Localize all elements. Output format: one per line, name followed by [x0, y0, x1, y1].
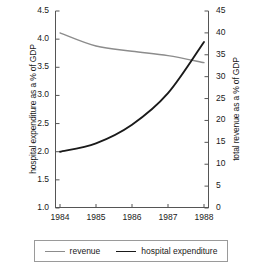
legend-swatch-revenue [45, 251, 65, 252]
x-tick-label: 1988 [186, 212, 222, 222]
x-tick-label: 1986 [114, 212, 150, 222]
x-tick-label: 1987 [150, 212, 186, 222]
data-series [60, 33, 204, 152]
legend-item-hospital-expenditure: hospital expenditure [116, 246, 217, 256]
x-tick-label: 1985 [78, 212, 114, 222]
right-tick-label: 30 [216, 71, 236, 81]
right-tick-label: 10 [216, 158, 236, 168]
left-tick-label: 4.0 [25, 33, 49, 43]
right-tick-label: 45 [216, 5, 236, 15]
legend-swatch-hospital-expenditure [116, 251, 136, 252]
right-tick-label: 15 [216, 136, 236, 146]
legend-label-revenue: revenue [70, 246, 101, 256]
right-axis-ticks [205, 11, 209, 208]
legend-item-revenue: revenue [45, 246, 101, 256]
left-tick-label: 3.0 [25, 89, 49, 99]
right-tick-label: 25 [216, 93, 236, 103]
left-tick-label: 2.0 [25, 146, 49, 156]
chart-legend: revenue hospital expenditure [34, 240, 228, 262]
left-axis-ticks [56, 11, 60, 208]
left-tick-label: 1.5 [25, 174, 49, 184]
right-tick-label: 40 [216, 27, 236, 37]
left-tick-label: 1.0 [25, 202, 49, 212]
series-line [60, 33, 204, 63]
chart-figure: hospital expenditure as a % of GDP total… [0, 0, 263, 268]
left-tick-label: 4.5 [25, 5, 49, 15]
right-tick-label: 5 [216, 180, 236, 190]
right-tick-label: 35 [216, 49, 236, 59]
x-tick-label: 1984 [42, 212, 78, 222]
legend-label-hospital-expenditure: hospital expenditure [141, 246, 217, 256]
left-tick-label: 2.5 [25, 118, 49, 128]
right-tick-label: 20 [216, 114, 236, 124]
right-tick-label: 0 [216, 202, 236, 212]
left-tick-label: 3.5 [25, 61, 49, 71]
